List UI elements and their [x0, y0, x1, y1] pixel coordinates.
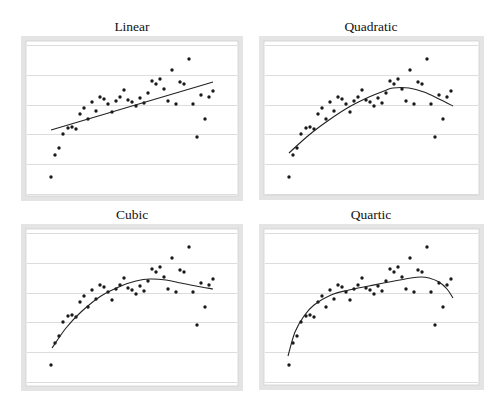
- data-point: [138, 96, 141, 99]
- data-point: [384, 91, 387, 94]
- data-point: [122, 276, 125, 279]
- data-point: [388, 267, 391, 270]
- data-point: [170, 68, 173, 71]
- data-point: [53, 153, 56, 156]
- data-point: [372, 292, 375, 295]
- data-point: [324, 117, 327, 120]
- data-point: [49, 175, 52, 178]
- data-point: [122, 88, 125, 91]
- data-point: [400, 275, 403, 278]
- data-point: [332, 109, 335, 112]
- data-point: [348, 298, 351, 301]
- data-point: [74, 127, 77, 130]
- data-point: [287, 363, 290, 366]
- data-point: [449, 89, 452, 92]
- data-point: [126, 286, 129, 289]
- data-point: [134, 292, 137, 295]
- data-point: [320, 294, 323, 297]
- data-point: [150, 267, 153, 270]
- data-point: [170, 256, 173, 259]
- data-point: [356, 95, 359, 98]
- data-point: [187, 245, 190, 248]
- data-point: [142, 289, 145, 292]
- data-point: [380, 101, 383, 104]
- data-point: [433, 135, 436, 138]
- data-point: [158, 77, 161, 80]
- data-point: [416, 268, 419, 271]
- data-point: [146, 91, 149, 94]
- data-point: [90, 100, 93, 103]
- data-point: [368, 288, 371, 291]
- chart-title: Quartic: [351, 207, 391, 222]
- data-point: [392, 82, 395, 85]
- data-point: [316, 112, 319, 115]
- data-point: [437, 93, 440, 96]
- data-point: [150, 79, 153, 82]
- plot-area: [264, 41, 479, 195]
- data-point: [154, 82, 157, 85]
- data-point: [336, 283, 339, 286]
- data-point: [199, 93, 202, 96]
- data-point: [94, 109, 97, 112]
- chart-title: Cubic: [116, 207, 148, 222]
- data-point: [154, 270, 157, 273]
- chart-panel-quartic: Quartic: [259, 207, 484, 390]
- data-point: [199, 281, 202, 284]
- data-point: [420, 270, 423, 273]
- data-point: [178, 268, 181, 271]
- data-point: [61, 132, 64, 135]
- chart-title: Quadratic: [344, 19, 397, 34]
- data-point: [61, 320, 64, 323]
- data-point: [404, 287, 407, 290]
- data-point: [70, 313, 73, 316]
- data-point: [328, 288, 331, 291]
- data-point: [380, 289, 383, 292]
- data-point: [416, 80, 419, 83]
- data-point: [441, 305, 444, 308]
- data-point: [340, 97, 343, 100]
- data-point: [328, 100, 331, 103]
- data-point: [344, 102, 347, 105]
- data-point: [114, 99, 117, 102]
- data-point: [203, 305, 206, 308]
- data-point: [90, 288, 93, 291]
- data-point: [352, 99, 355, 102]
- data-point: [291, 153, 294, 156]
- data-point: [106, 102, 109, 105]
- chart-panel-linear: Linear: [21, 19, 243, 201]
- data-point: [433, 323, 436, 326]
- data-point: [162, 275, 165, 278]
- data-point: [102, 285, 105, 288]
- data-point: [332, 297, 335, 300]
- data-point: [425, 57, 428, 60]
- data-point: [182, 270, 185, 273]
- data-point: [429, 102, 432, 105]
- data-point: [118, 95, 121, 98]
- data-point: [336, 95, 339, 98]
- data-point: [324, 305, 327, 308]
- data-point: [191, 102, 194, 105]
- data-point: [396, 77, 399, 80]
- data-point: [158, 265, 161, 268]
- data-point: [178, 80, 181, 83]
- panels-layer: LinearQuadraticCubicQuartic: [21, 19, 484, 391]
- data-point: [360, 276, 363, 279]
- data-point: [412, 290, 415, 293]
- data-point: [368, 100, 371, 103]
- data-point: [138, 284, 141, 287]
- data-point: [429, 290, 432, 293]
- data-point: [110, 298, 113, 301]
- data-point: [388, 79, 391, 82]
- data-point: [78, 112, 81, 115]
- data-point: [408, 68, 411, 71]
- data-point: [195, 135, 198, 138]
- data-point: [187, 57, 190, 60]
- data-point: [162, 87, 165, 90]
- chart-panel-cubic: Cubic: [21, 207, 243, 391]
- data-point: [425, 245, 428, 248]
- data-point: [287, 175, 290, 178]
- data-point: [207, 95, 210, 98]
- data-point: [392, 270, 395, 273]
- chart-title: Linear: [114, 19, 150, 34]
- plot-area: [264, 229, 479, 385]
